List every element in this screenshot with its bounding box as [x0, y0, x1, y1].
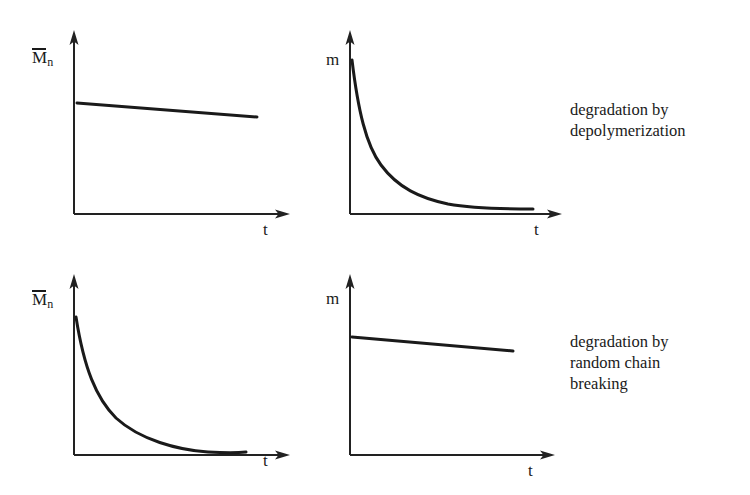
curve-mn-depolymerization	[77, 103, 257, 117]
mn-overbar-base: M	[32, 48, 47, 66]
y-axis-label-bottom-right: m	[326, 290, 339, 307]
x-axis-label-bottom-right: t	[528, 462, 533, 479]
x-axis-label-bottom-left: t	[263, 452, 268, 469]
x-axis-label-top-left: t	[263, 221, 268, 238]
curve-mass-random-chain-breaking	[352, 337, 513, 351]
y-axis-label-bottom-left: Mn	[32, 290, 53, 310]
mn-overbar-base-2: M	[32, 290, 47, 308]
mn-subscript-2: n	[47, 297, 53, 311]
caption-depolymerization: degradation by depolymerization	[570, 99, 685, 141]
panel-bottom-left	[70, 274, 291, 460]
degradation-figure: Mn t m t Mn t m t degradation by depolym…	[0, 0, 750, 495]
curve-mn-random-chain-breaking	[76, 317, 246, 453]
figure-canvas	[0, 0, 750, 495]
caption-random-chain-breaking: degradation by random chain breaking	[570, 331, 669, 394]
mn-subscript: n	[47, 55, 53, 69]
y-axis-label-top-left: Mn	[32, 48, 53, 68]
panel-top-left	[70, 30, 291, 219]
panel-top-right	[346, 30, 563, 219]
panel-bottom-right	[346, 274, 556, 460]
curve-mass-depolymerization	[352, 60, 533, 209]
y-axis-label-top-right: m	[326, 51, 339, 68]
x-axis-label-top-right: t	[534, 221, 539, 238]
